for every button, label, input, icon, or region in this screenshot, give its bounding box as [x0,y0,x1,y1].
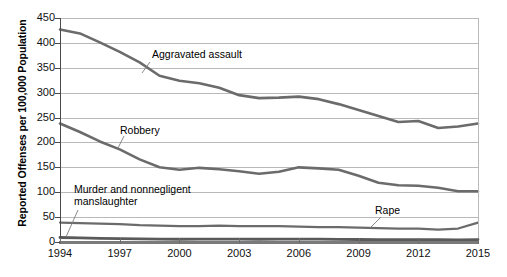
annotation-murder-line2: manslaughter [74,195,138,207]
annotation-murder: Murder and nonnegligentmanslaughter [74,183,191,207]
leader-lines [0,0,507,277]
annotation-rape: Rape [375,204,400,216]
annotation-murder-line1: Murder and nonnegligent [74,183,191,195]
line-chart: Reported Offenses per 100,000 Population… [0,0,507,277]
annotation-robbery: Robbery [120,124,160,136]
